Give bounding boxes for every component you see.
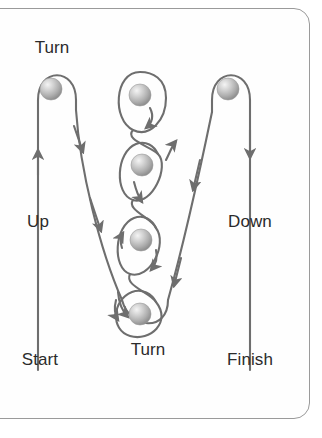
label-finish: Finish [227, 350, 273, 370]
ball-middle-1 [129, 84, 151, 106]
label-up: Up [27, 212, 49, 232]
label-turn-top: Turn [35, 38, 70, 58]
path-diagonal-down [76, 110, 122, 300]
arrow-middle-loop-2-down [134, 182, 142, 202]
path-diagonal-up [168, 112, 212, 300]
arrow-diagonal-down-2 [90, 198, 101, 231]
ball-middle-2 [131, 154, 153, 176]
ball-bottom [129, 303, 151, 325]
label-down: Down [228, 212, 272, 232]
label-turn-bottom: Turn [131, 340, 166, 360]
ball-top-left [40, 78, 62, 100]
arrow-middle-loop-3-up [121, 233, 123, 248]
arrow-middle-loop-1 [146, 108, 152, 128]
ball-group [40, 78, 239, 325]
label-start: Start [22, 350, 58, 370]
ball-middle-3 [130, 229, 152, 251]
ball-top-right [217, 78, 239, 100]
arrow-middle-loop-2-up [166, 141, 176, 160]
figure-canvas: Turn Up Down Start Turn Finish [0, 0, 322, 438]
